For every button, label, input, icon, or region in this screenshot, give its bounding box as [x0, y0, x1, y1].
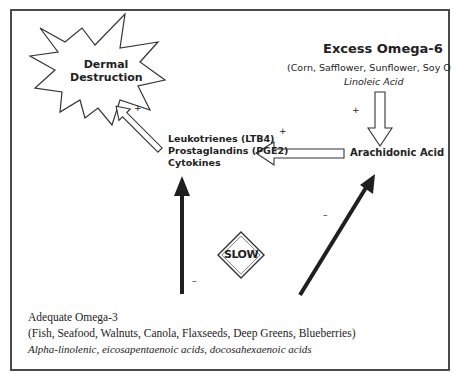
minus-sign-diagonal: – [323, 210, 328, 220]
omega6-sources: (Corn, Safflower, Sunflower, Soy O [287, 62, 451, 73]
arachidonic-acid-label: Arachidonic Acid [350, 147, 444, 158]
destruction-line: Destruction [70, 71, 142, 84]
omega3-acids: Alpha-linolenic, eicosapentaenoic acids,… [28, 343, 312, 355]
excess-omega6-title: Excess Omega-6 [323, 41, 443, 56]
alpha-linolenic: Alpha-linolenic [28, 343, 96, 355]
prostaglandins-line: Prostaglandins (PGE2) [168, 145, 288, 157]
leukotrienes-line: Leukotrienes (LTB4) [168, 133, 288, 145]
slow-label: SLOW [221, 248, 261, 261]
cytokines-line: Cytokines [168, 157, 288, 169]
docosahexaenoic: docosahexaenoic acids [210, 343, 312, 355]
dermal-destruction-label: Dermal Destruction [70, 58, 142, 84]
dermal-line: Dermal [70, 58, 142, 71]
solid-arrow-diagonal [300, 174, 375, 295]
omega3-sources: (Fish, Seafood, Walnuts, Canola, Flaxsee… [28, 327, 356, 339]
linoleic-acid-label: Linoleic Acid [344, 76, 404, 87]
mediators-label: Leukotrienes (LTB4) Prostaglandins (PGE2… [168, 133, 288, 169]
plus-sign-arachidonic: + [352, 105, 360, 115]
plus-sign-mediators: + [279, 126, 287, 136]
adequate-omega3-title: Adequate Omega-3 [28, 311, 118, 323]
minus-sign-vertical: – [192, 276, 197, 286]
solid-arrow-up [174, 176, 190, 294]
hollow-arrow-down [368, 92, 392, 146]
plus-sign-dermal: + [134, 103, 142, 113]
eicosapentaenoic: eicosapentaenoic acids [102, 343, 204, 355]
